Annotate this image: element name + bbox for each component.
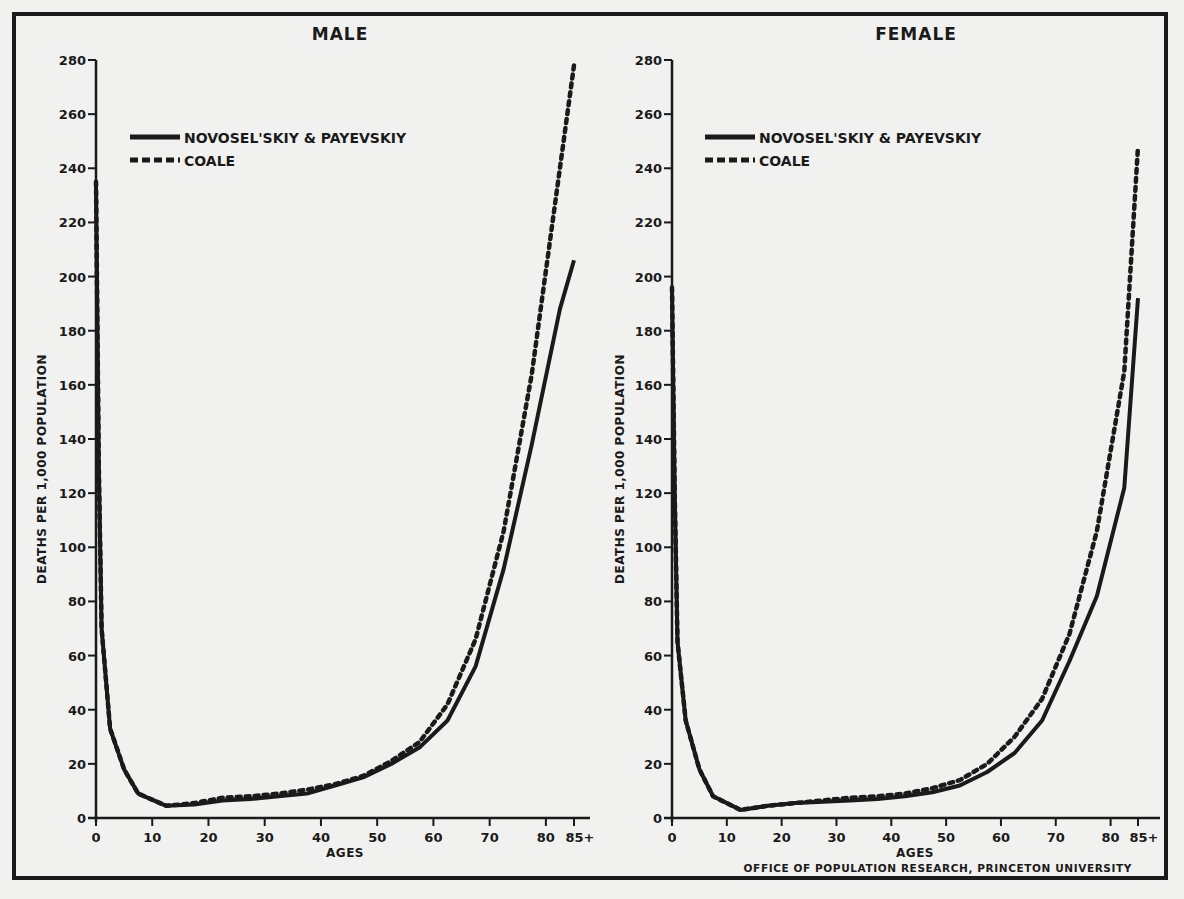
male-y-tick-label: 260 xyxy=(59,107,86,122)
male-chart-title: MALE xyxy=(312,24,369,44)
female-y-tick-label: 280 xyxy=(635,53,662,68)
female-x-tick-label: 70 xyxy=(1047,830,1065,845)
female-y-tick-label: 80 xyxy=(644,594,662,609)
female-y-tick-label: 220 xyxy=(635,215,662,230)
female-y-tick-label: 40 xyxy=(644,703,662,718)
male-y-tick-label: 60 xyxy=(68,649,86,664)
male-y-axis-title: DEATHS PER 1,000 POPULATION xyxy=(35,354,49,584)
male-y-tick-label: 280 xyxy=(59,53,86,68)
female-x-tick-label: 60 xyxy=(992,830,1010,845)
male-y-tick-label: 100 xyxy=(59,540,86,555)
female-x-tick-label: 0 xyxy=(667,830,676,845)
female-y-axis-title: DEATHS PER 1,000 POPULATION xyxy=(613,354,627,584)
female-y-tick-label: 20 xyxy=(644,757,662,772)
female-chart-title: FEMALE xyxy=(875,24,957,44)
male-x-tick-label: 60 xyxy=(424,830,442,845)
male-y-tick-label: 80 xyxy=(68,594,86,609)
male-y-tick-label: 20 xyxy=(68,757,86,772)
female-y-tick-label: 0 xyxy=(653,811,662,826)
female-x-tick-label: 85+ xyxy=(1130,830,1159,845)
male-y-tick-label: 180 xyxy=(59,324,86,339)
female-x-tick-label: 20 xyxy=(773,830,791,845)
female-y-tick-label: 140 xyxy=(635,432,662,447)
male-y-tick-label: 240 xyxy=(59,161,86,176)
male-legend-label: NOVOSEL'SKIY & PAYEVSKIY xyxy=(184,130,407,146)
male-y-tick-label: 120 xyxy=(59,486,86,501)
female-y-tick-label: 160 xyxy=(635,378,662,393)
male-series-novoselskiy-payevskiy xyxy=(96,182,574,806)
male-x-tick-label: 50 xyxy=(368,830,386,845)
male-x-tick-label: 10 xyxy=(143,830,161,845)
male-y-tick-label: 200 xyxy=(59,270,86,285)
female-x-tick-label: 30 xyxy=(827,830,845,845)
male-series-coale xyxy=(96,65,574,805)
female-y-tick-label: 120 xyxy=(635,486,662,501)
male-x-tick-label: 70 xyxy=(481,830,499,845)
credit-line: OFFICE OF POPULATION RESEARCH, PRINCETON… xyxy=(744,862,1132,874)
mortality-charts: OFFICE OF POPULATION RESEARCH, PRINCETON… xyxy=(0,0,1184,899)
female-x-tick-label: 50 xyxy=(937,830,955,845)
male-y-tick-label: 140 xyxy=(59,432,86,447)
male-x-tick-label: 30 xyxy=(256,830,274,845)
female-legend-label: NOVOSEL'SKIY & PAYEVSKIY xyxy=(759,130,982,146)
male-x-axis-title: AGES xyxy=(326,846,364,860)
male-y-tick-label: 40 xyxy=(68,703,86,718)
female-y-tick-label: 200 xyxy=(635,270,662,285)
female-y-tick-label: 60 xyxy=(644,649,662,664)
male-legend-label: COALE xyxy=(184,153,235,169)
male-y-tick-label: 0 xyxy=(77,811,86,826)
female-x-tick-label: 80 xyxy=(1102,830,1120,845)
female-y-tick-label: 260 xyxy=(635,107,662,122)
female-series-novoselskiy-payevskiy xyxy=(672,287,1138,810)
female-legend-label: COALE xyxy=(759,153,810,169)
female-y-tick-label: 240 xyxy=(635,161,662,176)
female-y-tick-label: 180 xyxy=(635,324,662,339)
male-x-tick-label: 40 xyxy=(312,830,330,845)
male-y-tick-label: 160 xyxy=(59,378,86,393)
male-y-tick-label: 220 xyxy=(59,215,86,230)
female-series-coale xyxy=(672,147,1138,810)
male-x-tick-label: 85+ xyxy=(566,830,595,845)
female-y-tick-label: 100 xyxy=(635,540,662,555)
male-x-tick-label: 80 xyxy=(537,830,555,845)
male-x-tick-label: 20 xyxy=(199,830,217,845)
male-x-tick-label: 0 xyxy=(91,830,100,845)
female-x-tick-label: 10 xyxy=(718,830,736,845)
female-x-axis-title: AGES xyxy=(896,846,934,860)
female-x-tick-label: 40 xyxy=(882,830,900,845)
